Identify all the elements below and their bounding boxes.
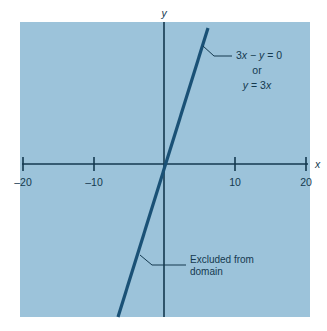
eq-minus-operator: − xyxy=(247,49,259,61)
equation-label-line3: y = 3x xyxy=(242,79,272,91)
excluded-annotation-line2: domain xyxy=(190,266,223,277)
eq3-variable-x: x xyxy=(265,79,272,91)
equation-label-line1: 3x − y = 0 xyxy=(236,49,282,61)
y-axis-label: y xyxy=(160,7,167,19)
x-tick-label--20: –20 xyxy=(14,176,32,188)
x-tick-label-20: 20 xyxy=(300,176,312,188)
x-tick-label--10: –10 xyxy=(85,176,103,188)
eq-equals-zero: = 0 xyxy=(264,49,282,61)
graph-figure: –20 –10 10 20 x y 3x − y = 0 or y = 3x E… xyxy=(0,0,327,331)
excluded-annotation-line1: Excluded from xyxy=(190,254,254,265)
eq3-equals-3: = 3 xyxy=(248,79,266,91)
coordinate-plane-chart: –20 –10 10 20 x y 3x − y = 0 or y = 3x E… xyxy=(0,0,327,331)
x-tick-label-10: 10 xyxy=(229,176,241,188)
x-axis-label: x xyxy=(314,158,321,170)
equation-label-or: or xyxy=(252,64,262,76)
